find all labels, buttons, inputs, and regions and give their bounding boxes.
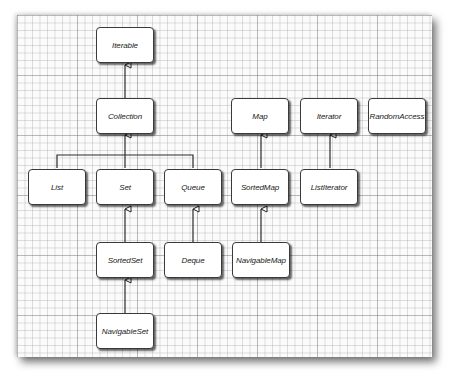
node-sortedset: SortedSet	[96, 242, 154, 278]
node-label: Map	[252, 112, 267, 121]
node-sortedmap: SortedMap	[231, 169, 289, 205]
node-label: NavigableSet	[102, 327, 148, 336]
node-label: ListIterator	[311, 183, 348, 192]
node-navigablemap: NavigableMap	[232, 242, 290, 278]
node-set: Set	[96, 169, 154, 205]
node-iterator: Iterator	[300, 98, 358, 134]
node-label: List	[51, 183, 63, 192]
node-label: Iterable	[112, 41, 138, 50]
node-deque: Deque	[164, 242, 222, 278]
node-label: SortedSet	[108, 256, 143, 265]
node-label: Set	[119, 183, 131, 192]
node-label: NavigableMap	[236, 256, 286, 265]
node-label: SortedMap	[241, 183, 279, 192]
node-randomaccess: RandomAccess	[368, 98, 426, 134]
node-collection: Collection	[96, 98, 154, 134]
node-list: List	[28, 169, 86, 205]
node-map: Map	[231, 98, 289, 134]
node-label: Deque	[181, 256, 204, 265]
node-navigableset: NavigableSet	[96, 313, 154, 349]
node-label: Collection	[108, 112, 142, 121]
node-label: Queue	[181, 183, 205, 192]
node-listiterator: ListIterator	[300, 169, 358, 205]
node-label: Iterator	[317, 112, 342, 121]
node-iterable: Iterable	[96, 27, 154, 63]
node-queue: Queue	[164, 169, 222, 205]
node-label: RandomAccess	[370, 112, 425, 121]
